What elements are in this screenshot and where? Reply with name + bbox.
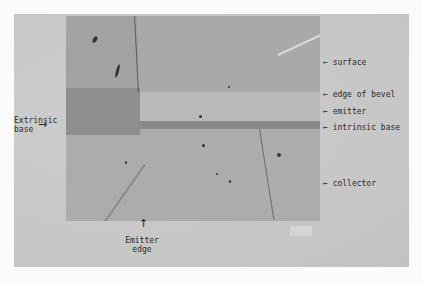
label-emitter-edge: Emitter edge	[122, 236, 162, 254]
label-surface: ← surface	[323, 58, 366, 67]
arrow-left-icon: ←	[323, 123, 328, 132]
arrow-right-icon: →	[38, 120, 47, 129]
arrow-left-icon: ←	[323, 107, 328, 116]
label-edge-of-bevel: ← edge of bevel	[323, 90, 395, 99]
extrinsic-upper-region	[66, 16, 138, 91]
label-collector: ← collector	[323, 179, 376, 188]
smudge	[290, 226, 312, 236]
arrow-up-icon: ↑	[139, 219, 148, 228]
speck	[229, 180, 231, 183]
label-extrinsic-base: Extrinsic base	[14, 116, 57, 134]
extrinsic-base-region	[66, 88, 140, 135]
label-intrinsic-base: ← intrinsic base	[323, 123, 400, 132]
arrow-left-icon: ←	[323, 179, 328, 188]
speck	[228, 86, 230, 88]
speck	[125, 161, 127, 164]
speck	[202, 144, 205, 147]
arrow-left-icon: ←	[323, 90, 328, 99]
emitter-region	[139, 92, 320, 121]
collector-region	[66, 135, 320, 221]
speck	[277, 153, 281, 157]
speck	[199, 115, 202, 118]
micrograph	[66, 16, 320, 221]
speck	[216, 173, 218, 175]
label-emitter: ← emitter	[323, 107, 366, 116]
arrow-left-icon: ←	[323, 58, 328, 67]
intrinsic-base-band	[139, 121, 320, 129]
